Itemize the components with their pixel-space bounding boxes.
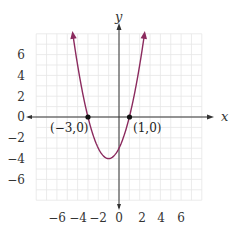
x-tick: 4 (157, 211, 165, 225)
x-tick-labels: −6 −4 −2 0 2 4 6 (48, 211, 185, 225)
x-axis (26, 115, 214, 120)
x-axis-arrow-left-icon (26, 115, 32, 119)
x-tick: −4 (69, 211, 87, 225)
x-intercept-point-left (85, 114, 90, 119)
y-axis-arrow-down-icon (117, 204, 121, 210)
y-tick: 2 (17, 90, 25, 104)
y-tick: −4 (7, 152, 25, 166)
y-tick: −6 (7, 173, 25, 187)
point-label-right: (1,0) (133, 121, 161, 135)
x-tick: 6 (177, 211, 185, 225)
y-tick: 4 (17, 69, 25, 83)
x-tick: −2 (89, 211, 107, 225)
point-label-left: (−3,0) (50, 121, 89, 135)
curve-arrow-right-icon (141, 31, 147, 39)
graph-figure: x y −6 −4 −2 0 2 4 6 6 4 2 0 −2 −4 −6 ( (0, 0, 235, 235)
x-intercept-point-right (127, 114, 132, 119)
curve-arrow-left-icon (70, 31, 76, 39)
y-axis-label: y (114, 9, 123, 24)
y-tick: −2 (7, 131, 25, 145)
y-tick-labels: 6 4 2 0 −2 −4 −6 (7, 48, 25, 187)
y-tick: 0 (17, 110, 25, 124)
y-tick: 6 (17, 48, 25, 62)
y-axis-arrow-up-icon (117, 23, 122, 30)
chart-canvas: x y −6 −4 −2 0 2 4 6 6 4 2 0 −2 −4 −6 ( (0, 0, 235, 235)
x-tick: −6 (48, 211, 66, 225)
x-axis-arrow-right-icon (207, 115, 214, 120)
x-axis-label: x (221, 109, 229, 124)
x-tick: 0 (115, 211, 123, 225)
x-tick: 2 (138, 211, 146, 225)
